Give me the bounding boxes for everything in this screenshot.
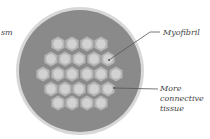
myofibril-core	[74, 54, 84, 64]
myofibril-core	[46, 54, 56, 64]
myofibril-core	[82, 39, 92, 49]
myofibril-core	[111, 69, 121, 79]
muscle-fiber-cross-section	[0, 0, 210, 139]
label-myofibril: Myofibril	[163, 28, 200, 38]
myofibril-core	[67, 39, 77, 49]
myofibril-core	[46, 84, 56, 94]
myofibril-core	[38, 69, 48, 79]
myofibril-core	[53, 98, 63, 108]
myofibril-core	[89, 84, 99, 94]
myofibril-core	[96, 98, 106, 108]
myofibril-core	[60, 84, 70, 94]
diagram-stage: sm Myofibril More connective tissue	[0, 0, 210, 139]
label-sarcoplasm-fragment: sm	[1, 28, 13, 38]
myofibril-core	[96, 39, 106, 49]
myofibril-core	[96, 69, 106, 79]
myofibril-core	[89, 54, 99, 64]
myofibril-core	[82, 98, 92, 108]
myofibril-core	[103, 54, 113, 64]
myofibril-core	[103, 84, 113, 94]
myofibril-core	[74, 84, 84, 94]
myofibril-core	[82, 69, 92, 79]
label-connective-tissue: More connective tissue	[160, 84, 210, 114]
pointer-dot-connective-tissue	[113, 87, 115, 89]
myofibril-core	[60, 54, 70, 64]
pointer-dot-myofibril	[108, 59, 110, 61]
myofibril-core	[67, 98, 77, 108]
myofibril-core	[67, 69, 77, 79]
myofibril-core	[53, 39, 63, 49]
myofibril-core	[53, 69, 63, 79]
